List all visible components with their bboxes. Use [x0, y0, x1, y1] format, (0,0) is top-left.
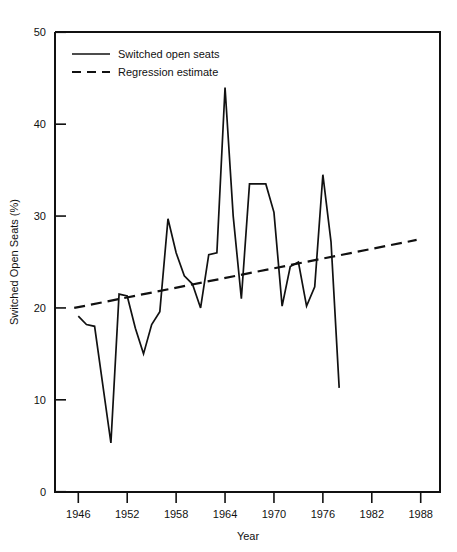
x-tick-label: 1988	[408, 508, 432, 520]
switched-open-seats-line-chart: 01020304050 1946195219581964197019761982…	[0, 0, 457, 552]
y-axis-ticks: 01020304050	[34, 26, 66, 497]
legend-label-regression-estimate: Regression estimate	[118, 66, 218, 78]
x-tick-label: 1958	[164, 508, 188, 520]
x-tick-label: 1976	[311, 508, 335, 520]
x-axis-title: Year	[237, 530, 260, 542]
y-tick-label: 50	[34, 26, 46, 38]
y-tick-label: 10	[34, 394, 46, 406]
x-tick-label: 1964	[213, 508, 237, 520]
legend: Switched open seats Regression estimate	[72, 48, 220, 78]
y-tick-label: 20	[34, 302, 46, 314]
y-axis-title: Switched Open Seats (%)	[8, 199, 20, 325]
y-tick-label: 0	[40, 486, 46, 498]
legend-label-switched-open-seats: Switched open seats	[118, 48, 220, 60]
chart-container: 01020304050 1946195219581964197019761982…	[0, 0, 457, 552]
x-tick-label: 1982	[360, 508, 384, 520]
y-tick-label: 40	[34, 118, 46, 130]
x-tick-label: 1970	[262, 508, 286, 520]
x-tick-label: 1952	[115, 508, 139, 520]
x-axis-ticks: 19461952195819641970197619821988	[66, 492, 433, 520]
switched-open-seats-line	[78, 87, 339, 443]
x-tick-label: 1946	[66, 508, 90, 520]
y-tick-label: 30	[34, 210, 46, 222]
